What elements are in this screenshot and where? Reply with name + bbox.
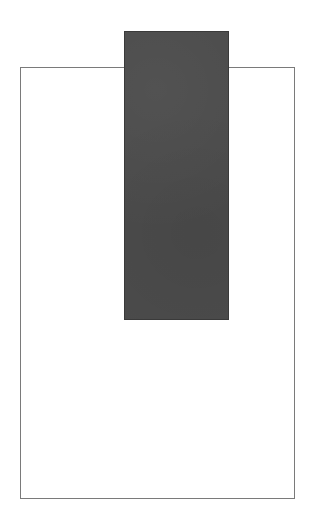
dark-gray-block (124, 31, 229, 320)
